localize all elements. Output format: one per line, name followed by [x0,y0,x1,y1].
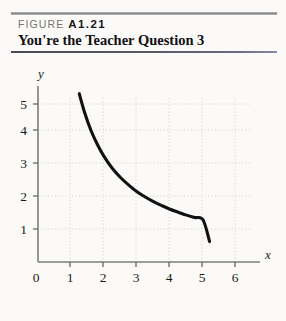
chart-plot-area: y x 1 2 3 4 5 0 1 2 3 4 5 6 [12,58,274,296]
y-tick-label: 4 [20,123,27,138]
y-tick-labels: 1 2 3 4 5 [20,97,27,237]
x-tick-label: 0 [33,270,40,285]
x-tick-label: 3 [133,270,140,285]
figure-card: FIGUREA1.21 You're the Teacher Question … [0,0,286,321]
grid-vertical [70,98,235,262]
top-divider [11,12,277,15]
x-tick-label: 5 [199,270,206,285]
x-tick-label: 6 [232,270,239,285]
chart-svg: y x 1 2 3 4 5 0 1 2 3 4 5 6 [12,58,274,296]
x-tick-labels: 0 1 2 3 4 5 6 [33,270,239,285]
figure-number: A1.21 [68,18,106,30]
y-tick-label: 3 [20,156,27,171]
data-curve [79,94,209,242]
figure-label: FIGUREA1.21 [18,17,106,31]
x-tick-label: 2 [100,270,107,285]
y-axis-label: y [36,66,44,81]
y-tick-label: 1 [20,222,27,237]
x-tick-label: 4 [166,270,173,285]
title-divider [11,51,277,53]
figure-title: You're the Teacher Question 3 [18,32,204,49]
y-tick-label: 2 [20,189,27,204]
x-tick-label: 1 [67,270,74,285]
y-tick-label: 5 [20,97,27,112]
x-axis-label: x [264,247,271,262]
figure-label-prefix: FIGURE [18,18,64,30]
